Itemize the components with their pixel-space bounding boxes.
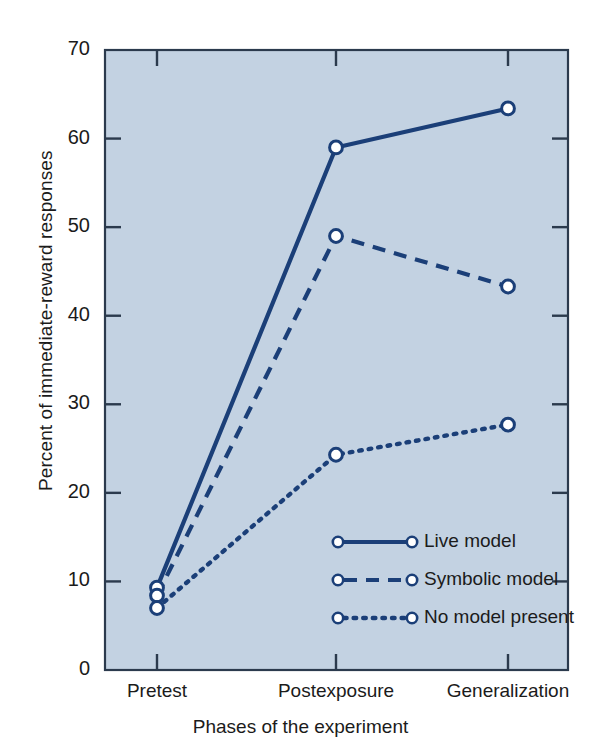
line-chart — [0, 0, 601, 753]
y-axis-tick-label: 0 — [38, 657, 90, 680]
legend-item-label: No model present — [424, 606, 574, 628]
x-axis-title: Phases of the experiment — [0, 716, 601, 738]
legend-item-label: Symbolic model — [424, 568, 558, 590]
y-axis-tick-label: 40 — [38, 303, 90, 326]
y-axis-tick-label: 30 — [38, 391, 90, 414]
chart-figure: Percent of immediate-reward responses Ph… — [0, 0, 601, 753]
y-axis-tick-label: 60 — [38, 126, 90, 149]
y-axis-tick-label: 10 — [38, 568, 90, 591]
y-axis-tick-label: 70 — [38, 37, 90, 60]
x-axis-tick-label: Postexposure — [278, 680, 394, 702]
legend-item-label: Live model — [424, 530, 516, 552]
x-axis-tick-label: Generalization — [447, 680, 570, 702]
y-axis-tick-label: 50 — [38, 214, 90, 237]
y-axis-tick-label: 20 — [38, 480, 90, 503]
x-axis-tick-label: Pretest — [127, 680, 187, 702]
